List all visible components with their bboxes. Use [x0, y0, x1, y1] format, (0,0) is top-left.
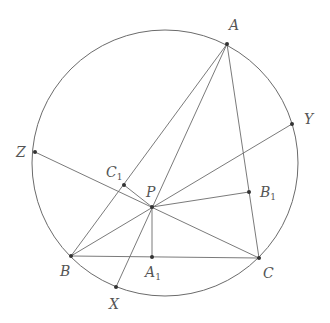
label-p: P — [145, 184, 156, 200]
geometry-diagram: ABCPXYZA1B1C1 — [0, 0, 330, 323]
label-a: A — [227, 17, 239, 33]
label-a1: A1 — [143, 264, 161, 282]
point-y — [290, 122, 294, 126]
point-x — [114, 285, 118, 289]
label-b1: B1 — [259, 184, 276, 202]
point-a — [225, 42, 229, 46]
segment-a-x — [116, 44, 227, 287]
label-c1: C1 — [106, 164, 122, 182]
label-b: B — [59, 263, 70, 279]
point-a1 — [150, 255, 154, 259]
segment-a-b — [71, 44, 227, 256]
labels-group: ABCPXYZA1B1C1 — [15, 17, 315, 312]
point-c1 — [122, 183, 126, 187]
segment-b-c — [71, 256, 259, 258]
segment-c-z — [35, 152, 259, 258]
point-p — [150, 205, 154, 209]
segments-group — [35, 44, 292, 287]
label-z: Z — [15, 144, 26, 160]
point-c — [257, 256, 261, 260]
segment-c-a — [227, 44, 259, 258]
label-y: Y — [304, 111, 315, 127]
label-x: X — [108, 296, 120, 312]
point-b1 — [247, 190, 251, 194]
point-b — [69, 254, 73, 258]
diagram-svg: ABCPXYZA1B1C1 — [0, 0, 330, 323]
points-group — [33, 42, 294, 289]
point-z — [33, 150, 37, 154]
segment-p-b1 — [152, 192, 249, 207]
label-c: C — [263, 265, 274, 281]
